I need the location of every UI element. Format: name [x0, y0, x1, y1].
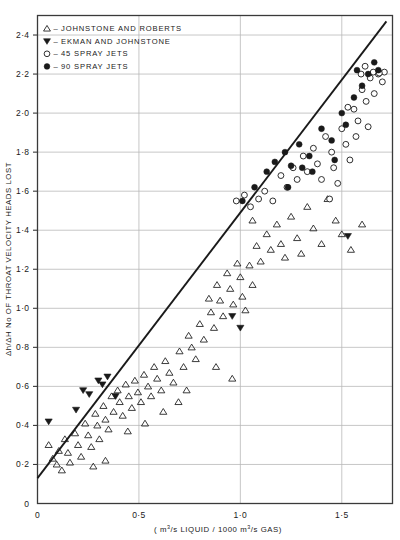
data-point	[309, 169, 315, 175]
data-point	[375, 67, 381, 73]
y-tick-label: 2·2	[16, 69, 30, 79]
data-point	[252, 184, 258, 190]
y-tick-label: 0·8	[16, 342, 30, 352]
data-point	[339, 110, 345, 116]
data-point	[285, 184, 291, 190]
y-tick-label: 0·6	[16, 381, 30, 391]
data-point	[288, 163, 294, 169]
data-point	[335, 180, 341, 186]
data-point	[299, 165, 305, 171]
data-point	[359, 83, 365, 89]
legend-label: 90 SPRAY JETS	[61, 62, 128, 71]
data-point	[343, 122, 349, 128]
data-point	[332, 157, 338, 163]
data-point	[233, 198, 239, 204]
y-tick-label: 1·0	[16, 303, 30, 313]
x-tick-label: 1·5	[335, 510, 349, 520]
legend-dash: –	[54, 49, 59, 58]
x-tick-label: 0·5	[132, 510, 146, 520]
y-tick-label: 1·2	[16, 264, 30, 274]
y-tick-label: 1·4	[16, 225, 30, 235]
data-point	[353, 134, 359, 140]
legend-dash: –	[54, 24, 59, 33]
data-point	[329, 149, 335, 155]
y-tick-label: 1·6	[16, 186, 30, 196]
x-tick-label: 1·0	[234, 510, 248, 520]
data-point	[323, 134, 329, 140]
data-point	[319, 126, 325, 132]
data-point	[278, 173, 284, 179]
x-axis-label: ( m3/s LIQUID / 1000 m3/s GAS)	[154, 524, 282, 534]
legend-entry: –EKMAN AND JOHNSTONE	[44, 37, 171, 46]
x-tick-label: 0	[35, 510, 40, 520]
data-point	[351, 95, 357, 101]
data-point	[365, 124, 371, 130]
chart-figure: 00·51·01·5 00·20·40·60·81·01·21·41·61·82…	[0, 0, 400, 540]
legend-entry: –45 SPRAY JETS	[44, 49, 128, 58]
legend-marker-filled-circle	[44, 64, 50, 70]
data-point	[379, 79, 385, 85]
data-point	[262, 188, 268, 194]
data-point	[327, 196, 333, 202]
legend-entry: –JOHNSTONE AND ROBERTS	[44, 24, 182, 33]
data-point	[270, 198, 276, 204]
y-tick-label: 0·4	[16, 420, 30, 430]
data-point	[363, 98, 369, 104]
data-point	[347, 157, 353, 163]
y-tick-label: 1·8	[16, 147, 30, 157]
data-point	[329, 137, 335, 143]
data-point	[310, 145, 316, 151]
legend-marker-open-circle	[44, 51, 50, 57]
data-point	[296, 141, 302, 147]
data-point	[248, 204, 254, 210]
data-point	[239, 198, 245, 204]
legend-label: EKMAN AND JOHNSTONE	[61, 37, 171, 46]
legend-dash: –	[54, 62, 59, 71]
y-tick-label: 2·4	[16, 30, 30, 40]
data-point	[354, 67, 360, 73]
data-point	[331, 165, 337, 171]
legend-label: JOHNSTONE AND ROBERTS	[61, 24, 182, 33]
data-point	[345, 104, 351, 110]
data-point	[371, 59, 377, 65]
legend-entry: –90 SPRAY JETS	[44, 62, 128, 71]
data-point	[300, 153, 306, 159]
y-tick-label: 2·0	[16, 108, 30, 118]
data-point	[351, 106, 357, 112]
data-point	[306, 153, 312, 159]
data-point	[319, 177, 325, 183]
data-point	[314, 161, 320, 167]
data-point	[256, 196, 262, 202]
data-point	[365, 71, 371, 77]
data-point	[343, 141, 349, 147]
data-point	[355, 118, 361, 124]
y-tick-label: 0·2	[16, 459, 30, 469]
y-axis-label: Δh/ΔH No OF THROAT VELOCITY HEADS LOST	[4, 162, 13, 356]
y-tick-label: 0	[24, 499, 29, 509]
data-point	[371, 91, 377, 97]
legend-dash: –	[54, 37, 59, 46]
data-point	[294, 177, 300, 183]
data-point	[264, 169, 270, 175]
data-point	[241, 192, 247, 198]
scatter-plot: 00·51·01·5 00·20·40·60·81·01·21·41·61·82…	[0, 0, 400, 540]
legend-label: 45 SPRAY JETS	[61, 49, 128, 58]
data-point	[362, 63, 368, 69]
